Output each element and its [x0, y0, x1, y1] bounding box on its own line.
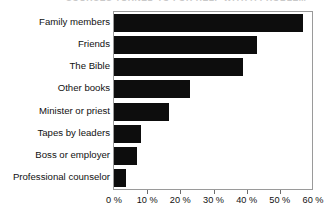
x-tick-label: 30 %	[203, 195, 224, 206]
bar	[114, 36, 257, 54]
x-tick-label: 40 %	[236, 195, 257, 206]
bar	[114, 58, 243, 76]
category-axis: Family membersFriendsThe BibleOther book…	[0, 11, 110, 190]
bar	[114, 80, 190, 98]
x-tick-label: 50 %	[269, 195, 290, 206]
category-label: Tapes by leaders	[0, 128, 110, 138]
bar	[114, 147, 137, 165]
x-tick-mark	[247, 190, 248, 194]
bar	[114, 103, 169, 121]
x-tick-label: 20 %	[170, 195, 191, 206]
x-tick-mark	[180, 190, 181, 194]
x-tick-label: 0 %	[106, 195, 122, 206]
category-label: Minister or priest	[0, 106, 110, 116]
category-label: The Bible	[0, 61, 110, 71]
category-label: Family members	[0, 17, 110, 27]
category-label: Other books	[0, 83, 110, 93]
category-label: Boss or employer	[0, 150, 110, 160]
bar-chart: SOURCES TURNED TO FOR HELP WITH A PROBLE…	[0, 0, 330, 217]
category-label: Professional counselor	[0, 172, 110, 182]
x-tick-mark	[280, 190, 281, 194]
bar	[114, 14, 303, 32]
x-tick-mark	[214, 190, 215, 194]
bars-layer	[114, 12, 313, 189]
x-tick-mark	[147, 190, 148, 194]
bar	[114, 169, 126, 187]
x-tick-label: 60 %	[303, 195, 324, 206]
chart-title: SOURCES TURNED TO FOR HELP WITH A PROBLE…	[66, 0, 326, 2]
category-label: Friends	[0, 39, 110, 49]
x-tick-label: 10 %	[137, 195, 158, 206]
x-axis: 0 %10 %20 %30 %40 %50 %60 %	[113, 190, 313, 217]
bar	[114, 125, 141, 143]
